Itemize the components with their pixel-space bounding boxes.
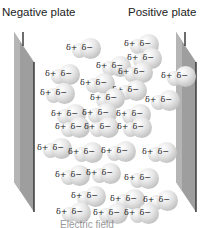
delta-minus-label: δ− — [140, 39, 152, 48]
positive-plate — [176, 32, 198, 212]
caption: Electric field — [60, 219, 114, 228]
delta-plus-label: δ+ — [110, 194, 122, 203]
polar-molecule: δ+δ− — [117, 117, 153, 139]
delta-minus-label: δ− — [161, 95, 173, 104]
dipole-label: δ+δ− — [142, 147, 169, 156]
delta-minus-label: δ− — [177, 71, 189, 80]
delta-plus-label: δ+ — [124, 208, 136, 217]
polar-molecule: δ+δ− — [124, 168, 160, 190]
dipole-label: δ+δ− — [118, 67, 145, 76]
dipole-label: δ+δ− — [84, 122, 111, 131]
dipole-label: δ+δ− — [66, 43, 93, 52]
delta-plus-label: δ+ — [118, 67, 130, 76]
delta-plus-label: δ+ — [40, 88, 52, 97]
dipole-label: δ+δ− — [90, 93, 117, 102]
delta-minus-label: δ− — [159, 195, 171, 204]
dipole-label: δ+δ− — [145, 95, 172, 104]
polar-molecule: δ+δ− — [101, 141, 137, 163]
polar-molecule: δ+δ− — [68, 142, 104, 164]
delta-minus-label: δ− — [100, 122, 112, 131]
delta-minus-label: δ− — [84, 147, 96, 156]
dipole-label: δ+δ− — [55, 170, 82, 179]
polar-molecule: δ+δ− — [142, 142, 178, 164]
dipole-label: δ+δ− — [80, 78, 107, 87]
delta-minus-label: δ− — [140, 208, 152, 217]
delta-minus-label: δ− — [158, 147, 170, 156]
delta-plus-label: δ+ — [84, 122, 96, 131]
delta-minus-label: δ− — [128, 85, 140, 94]
delta-plus-label: δ+ — [96, 61, 108, 70]
delta-plus-label: δ+ — [82, 108, 94, 117]
dipole-label: δ+δ− — [45, 69, 72, 78]
delta-plus-label: δ+ — [145, 95, 157, 104]
delta-minus-label: δ− — [82, 43, 94, 52]
delta-minus-label: δ− — [71, 170, 83, 179]
delta-plus-label: δ+ — [55, 122, 67, 131]
polar-molecule: δ+δ− — [161, 66, 197, 88]
delta-minus-label: δ− — [109, 208, 121, 217]
dipole-label: δ+δ− — [56, 207, 83, 216]
delta-plus-label: δ+ — [101, 146, 113, 155]
delta-minus-label: δ− — [87, 191, 99, 200]
dipole-label: δ+δ− — [71, 191, 98, 200]
delta-minus-label: δ− — [117, 146, 129, 155]
dipole-label: δ+δ− — [86, 168, 113, 177]
polar-molecule: δ+δ− — [86, 163, 122, 185]
dipole-label: δ+δ− — [161, 71, 188, 80]
delta-minus-label: δ− — [126, 194, 138, 203]
delta-minus-label: δ− — [71, 122, 83, 131]
delta-minus-label: δ− — [143, 53, 155, 62]
delta-plus-label: δ+ — [56, 207, 68, 216]
delta-minus-label: δ− — [72, 207, 84, 216]
dipole-label: δ+δ− — [68, 147, 95, 156]
dipole-label: δ+δ− — [82, 108, 109, 117]
delta-minus-label: δ− — [98, 108, 110, 117]
polar-molecule: δ+δ− — [40, 83, 76, 105]
dipole-label: δ+δ− — [124, 39, 151, 48]
delta-minus-label: δ− — [133, 122, 145, 131]
delta-plus-label: δ+ — [80, 78, 92, 87]
delta-plus-label: δ+ — [124, 39, 136, 48]
negative-plate-label: Negative plate — [2, 6, 76, 18]
delta-plus-label: δ+ — [37, 143, 49, 152]
polar-molecule: δ+δ− — [84, 117, 120, 139]
delta-minus-label: δ− — [102, 168, 114, 177]
dipole-label: δ+δ− — [124, 208, 151, 217]
dipole-label: δ+δ− — [101, 146, 128, 155]
positive-plate-label: Positive plate — [128, 6, 196, 18]
delta-plus-label: δ+ — [66, 43, 78, 52]
delta-plus-label: δ+ — [90, 93, 102, 102]
delta-minus-label: δ− — [56, 88, 68, 97]
delta-plus-label: δ+ — [142, 147, 154, 156]
delta-plus-label: δ+ — [68, 147, 80, 156]
dipole-label: δ+δ− — [117, 122, 144, 131]
polar-molecule: δ+δ− — [124, 203, 160, 225]
delta-minus-label: δ− — [140, 173, 152, 182]
dipole-label: δ+δ− — [55, 122, 82, 131]
delta-plus-label: δ+ — [93, 208, 105, 217]
dipole-label: δ+δ− — [110, 194, 137, 203]
delta-plus-label: δ+ — [117, 122, 129, 131]
dipole-label: δ+δ− — [37, 143, 64, 152]
delta-plus-label: δ+ — [86, 168, 98, 177]
delta-minus-label: δ− — [106, 93, 118, 102]
negative-plate — [14, 32, 36, 212]
delta-plus-label: δ+ — [45, 69, 57, 78]
delta-plus-label: δ+ — [71, 191, 83, 200]
delta-minus-label: δ− — [61, 69, 73, 78]
delta-minus-label: δ− — [53, 143, 65, 152]
dipole-label: δ+δ− — [40, 88, 67, 97]
dipole-label: δ+δ− — [93, 208, 120, 217]
dipole-label: δ+δ− — [124, 173, 151, 182]
delta-plus-label: δ+ — [124, 173, 136, 182]
delta-plus-label: δ+ — [161, 71, 173, 80]
delta-minus-label: δ− — [134, 67, 146, 76]
delta-minus-label: δ− — [96, 78, 108, 87]
delta-plus-label: δ+ — [55, 170, 67, 179]
